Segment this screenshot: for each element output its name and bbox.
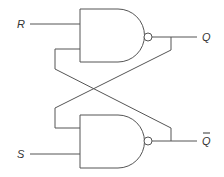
inversion-bubble-bottom — [144, 137, 152, 145]
label-qbar: Q — [202, 135, 211, 147]
nand-gate-bottom — [80, 115, 145, 168]
nand-gate-top — [80, 9, 145, 62]
sr-latch-diagram: R S Q Q — [0, 0, 224, 177]
label-s: S — [17, 148, 25, 160]
label-q: Q — [202, 31, 211, 43]
inversion-bubble-top — [144, 33, 152, 41]
label-r: R — [17, 18, 25, 30]
